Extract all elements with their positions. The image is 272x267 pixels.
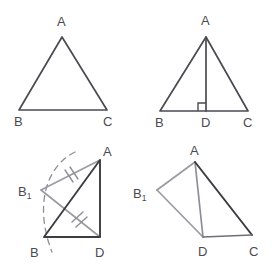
- label-b-top-left: B: [14, 114, 23, 129]
- label-b-top-right: B: [155, 115, 164, 130]
- triangle-abc-outline: [19, 37, 107, 110]
- label-c-top-right: C: [243, 115, 252, 130]
- segment-a-c: [195, 162, 252, 235]
- right-angle-marker-at-d: [198, 103, 206, 111]
- segment-a-d: [195, 162, 203, 237]
- segment-b1-d: [157, 190, 203, 237]
- panel-bottom-left: A B1 B D: [18, 144, 112, 260]
- label-b-bottom-left: B: [30, 245, 39, 260]
- label-b1-bottom-right: B1: [133, 186, 147, 203]
- label-c-bottom-right: C: [249, 244, 258, 259]
- label-b1-subscript: 1: [27, 191, 32, 201]
- triangle-abc-outline-altitude: [160, 37, 248, 111]
- label-a-bottom-left: A: [103, 144, 112, 159]
- label-c-top-left: C: [103, 114, 112, 129]
- label-b1-base-2: B: [133, 186, 142, 201]
- panel-bottom-right: A B1 D C: [133, 143, 258, 259]
- label-b1-subscript-2: 1: [142, 193, 147, 203]
- segment-d-c: [203, 235, 252, 237]
- panel-top-left: A B C: [14, 14, 112, 129]
- label-d-top-right: D: [201, 115, 210, 130]
- label-b1-bottom-left: B1: [18, 184, 32, 201]
- label-d-bottom-right: D: [198, 244, 207, 259]
- label-d-bottom-left: D: [95, 245, 104, 260]
- label-b1-base: B: [18, 184, 27, 199]
- construction-segment-b1-a: [41, 160, 100, 190]
- label-a-top-right: A: [201, 13, 210, 28]
- label-a-bottom-right: A: [190, 143, 199, 158]
- panel-top-right: A B D C: [155, 13, 252, 130]
- figure-canvas: A B C A B D C: [0, 0, 272, 267]
- geometry-figure-sheet: A B C A B D C: [0, 0, 272, 267]
- segment-b1-a: [157, 162, 195, 190]
- label-a-top-left: A: [57, 14, 66, 29]
